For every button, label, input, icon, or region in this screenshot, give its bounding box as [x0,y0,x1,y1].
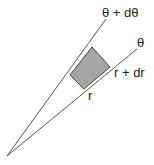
label-r: r [88,89,92,102]
diagram-graphics [0,0,154,165]
shaded-area-element [70,47,110,89]
label-theta: θ [137,36,144,49]
label-theta-plus-dtheta: θ + dθ [102,6,139,19]
polar-area-element-diagram: θ + dθ θ r + dr r [0,0,154,165]
label-r-plus-dr: r + dr [114,66,145,79]
